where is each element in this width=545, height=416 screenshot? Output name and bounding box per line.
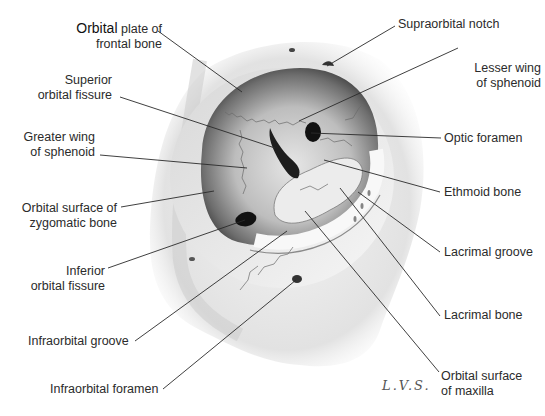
label-greater-wing: Greater wing of sphenoid [23, 130, 95, 160]
label-line: Lesser wing [474, 61, 541, 76]
label-superior-orbital-fissure: Superior orbital fissure [38, 73, 112, 103]
label-line: of sphenoid [23, 145, 95, 160]
label-lesser-wing: Lesser wing of sphenoid [474, 61, 541, 91]
label-line: Superior [38, 73, 112, 88]
label-inferior-orbital-fissure: Inferior orbital fissure [31, 264, 105, 294]
label-line: Orbital surface of [22, 201, 117, 216]
label-line: Orbital surface [441, 369, 522, 384]
label-optic-foramen: Optic foramen [444, 131, 523, 146]
label-line: Greater wing [23, 130, 95, 145]
label-line: orbital fissure [31, 279, 105, 294]
label-maxilla-surface: Orbital surface of maxilla [441, 369, 522, 399]
label-line: Lacrimal bone [444, 308, 523, 323]
label-line: Ethmoid bone [444, 185, 521, 200]
label-line: Infraorbital groove [28, 334, 129, 349]
label-orbital-plate-rest: plate of [118, 22, 162, 36]
label-line: Lacrimal groove [444, 245, 533, 260]
optic-foramen-shape [305, 122, 321, 142]
label-orbital-plate-emphasis: Orbital [76, 20, 117, 36]
orbit-diagram: Orbital plate of frontal bone Superior o… [0, 0, 545, 416]
label-line: Inferior [31, 264, 105, 279]
label-infraorbital-groove: Infraorbital groove [28, 334, 129, 349]
label-line: Infraorbital foramen [50, 382, 158, 397]
label-line: zygomatic bone [22, 216, 117, 231]
label-line: of sphenoid [474, 76, 541, 91]
label-line: Optic foramen [444, 131, 523, 146]
label-supraorbital-notch: Supraorbital notch [398, 17, 499, 32]
label-line: Supraorbital notch [398, 17, 499, 32]
label-infraorbital-foramen: Infraorbital foramen [50, 382, 158, 397]
label-zygomatic-surface: Orbital surface of zygomatic bone [22, 201, 117, 231]
label-ethmoid-bone: Ethmoid bone [444, 185, 521, 200]
label-orbital-plate: Orbital plate of frontal bone [76, 21, 162, 52]
label-lacrimal-bone: Lacrimal bone [444, 308, 523, 323]
label-lacrimal-groove: Lacrimal groove [444, 245, 533, 260]
label-orbital-plate-line2: frontal bone [76, 37, 162, 52]
label-line: orbital fissure [38, 88, 112, 103]
artist-signature: L.V.S. [382, 378, 431, 393]
label-line: of maxilla [441, 384, 522, 399]
